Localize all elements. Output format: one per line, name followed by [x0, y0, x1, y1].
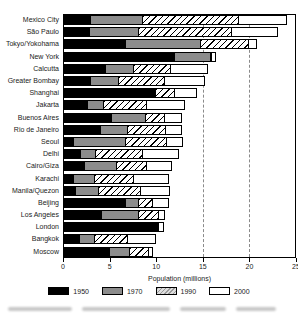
bar-segment-1970	[102, 211, 138, 219]
bar-row: Beijing	[0, 197, 298, 209]
bar-row: Delhi	[0, 148, 298, 160]
bar-segment-1950	[64, 223, 159, 231]
bar-3	[63, 52, 216, 62]
population-bar-chart: Mexico CitySão PauloTokyo/YokohamaNew Yo…	[0, 0, 298, 314]
bar-segment-1950	[64, 199, 126, 207]
bar-segment-2000	[232, 28, 278, 36]
bar-segment-2000	[166, 126, 182, 134]
bar-segment-1950	[64, 126, 101, 134]
legend-label: 1990	[181, 288, 197, 295]
bar-segment-1950	[64, 138, 74, 146]
x-tick-label: 5	[99, 263, 121, 270]
bar-segment-2000	[239, 16, 286, 24]
category-label: Greater Bombay	[0, 77, 63, 85]
bar-segment-1990	[95, 175, 134, 183]
bar-segment-1950	[64, 28, 90, 36]
category-label: São Paulo	[0, 28, 63, 36]
category-label: Cairo/Giza	[0, 162, 63, 170]
bar-segment-2000	[128, 235, 155, 243]
bar-segment-2000	[159, 223, 163, 231]
category-label: Delhi	[0, 150, 63, 158]
bar-row: Manila/Quezon	[0, 185, 298, 197]
category-label: Karachi	[0, 175, 63, 183]
bar-13	[63, 174, 169, 184]
bar-segment-1950	[64, 211, 102, 219]
bar-10	[63, 137, 183, 147]
bar-segment-1970	[90, 28, 139, 36]
legend-swatch-2000	[209, 287, 230, 295]
category-label: Shanghai	[0, 89, 63, 97]
category-label: Buenos Aires	[0, 114, 63, 122]
category-label: Mexico City	[0, 16, 63, 24]
bar-segment-1970	[76, 187, 99, 195]
bar-row: Los Angeles	[0, 209, 298, 221]
legend-label: 1970	[127, 288, 143, 295]
bar-segment-1990	[104, 101, 147, 109]
bar-row: Calcutta	[0, 63, 298, 75]
bar-row: Seoul	[0, 136, 298, 148]
bar-segment-1970	[126, 199, 138, 207]
bar-segment-1970	[74, 175, 95, 183]
legend-item-1950: 1950	[48, 287, 89, 295]
bar-segment-2000	[249, 40, 256, 48]
bar-segment-2000	[134, 175, 168, 183]
bar-segment-1950	[64, 53, 175, 61]
bar-4	[63, 64, 208, 74]
bar-8	[63, 113, 182, 123]
category-label: Seoul	[0, 138, 63, 146]
x-tick-label: 15	[192, 263, 214, 270]
bar-segment-1950	[64, 65, 106, 73]
bar-segment-2000	[167, 138, 182, 146]
bar-row: Rio de Janeiro	[0, 124, 298, 136]
bar-segment-2000	[159, 211, 164, 219]
x-tick-label: 25	[285, 263, 298, 270]
category-label: Manila/Quezon	[0, 187, 63, 195]
bar-segment-1950	[64, 89, 156, 97]
bar-2	[63, 39, 257, 49]
bar-12	[63, 161, 172, 171]
category-label: Jakarta	[0, 101, 63, 109]
category-label: Beijing	[0, 199, 63, 207]
bar-9	[63, 125, 182, 135]
bar-segment-1950	[64, 248, 110, 256]
bar-row: London	[0, 221, 298, 233]
bar-segment-1990	[134, 65, 171, 73]
bar-segment-1950	[64, 114, 112, 122]
legend-swatch-1950	[48, 287, 69, 295]
x-tick-label: 10	[145, 263, 167, 270]
bar-11	[63, 149, 179, 159]
bar-segment-1950	[64, 150, 81, 158]
bar-segment-1950	[64, 235, 80, 243]
bar-segment-1990	[99, 187, 141, 195]
bar-segment-2000	[165, 77, 204, 85]
bar-segment-1970	[91, 77, 119, 85]
bar-segment-2000	[171, 65, 206, 73]
bar-segment-2000	[153, 199, 168, 207]
bar-segment-2000	[165, 114, 182, 122]
bar-row: Shanghai	[0, 87, 298, 99]
bar-segment-1970	[88, 101, 104, 109]
bar-segment-1990	[139, 211, 160, 219]
bar-segment-2000	[149, 248, 152, 256]
bar-16	[63, 210, 165, 220]
bar-segment-1990	[156, 89, 175, 97]
bar-row: Jakarta	[0, 99, 298, 111]
bar-7	[63, 100, 185, 110]
legend-label: 1950	[73, 288, 89, 295]
x-tick-label: 0	[52, 263, 74, 270]
bar-segment-1950	[64, 187, 76, 195]
bar-segment-1970	[175, 53, 211, 61]
x-axis-label: Population (millions)	[63, 275, 296, 282]
bar-segment-1990	[119, 77, 165, 85]
bar-row: Greater Bombay	[0, 75, 298, 87]
x-tick	[156, 258, 157, 262]
bar-5	[63, 76, 205, 86]
x-tick	[296, 258, 297, 262]
bar-segment-1970	[80, 235, 95, 243]
category-label: New York	[0, 53, 63, 61]
x-tick	[203, 258, 204, 262]
category-label: Moscow	[0, 248, 63, 256]
bar-segment-1990	[96, 150, 144, 158]
bar-17	[63, 222, 164, 232]
bar-19	[63, 247, 153, 257]
